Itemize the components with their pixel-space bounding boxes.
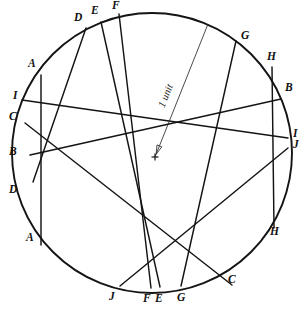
chord-b — [30, 99, 281, 155]
label-f-top: F — [112, 0, 120, 12]
chords-group — [22, 14, 288, 288]
label-d-lower-left: D — [9, 184, 17, 196]
label-b-right: B — [285, 82, 293, 94]
label-c-lower-right: C — [228, 274, 236, 286]
chord-f — [119, 14, 151, 288]
label-e-top: E — [91, 5, 99, 17]
figure-canvas — [0, 0, 304, 310]
label-d-top: D — [74, 12, 82, 24]
label-g-top: G — [241, 30, 249, 42]
circle-chord-figure: DEFGAHIBCBIJDAHCJFEG 1 unit — [0, 0, 304, 310]
label-j-right: J — [293, 139, 299, 151]
chord-h — [272, 67, 274, 228]
label-c-left: C — [9, 111, 17, 123]
label-a-upper-left: A — [28, 58, 36, 70]
chord-g — [181, 41, 236, 286]
label-b-left: B — [9, 146, 17, 158]
label-g-bottom: G — [177, 292, 185, 304]
label-a-lower-left: A — [26, 232, 34, 244]
label-f-bottom: F — [143, 293, 151, 305]
label-h-lower-right: H — [270, 226, 279, 238]
chord-e — [101, 22, 160, 287]
label-j-bottom: J — [109, 291, 115, 303]
label-i-left: I — [13, 90, 17, 102]
label-h-upper-right: H — [267, 51, 276, 63]
label-e-bottom: E — [155, 293, 163, 305]
